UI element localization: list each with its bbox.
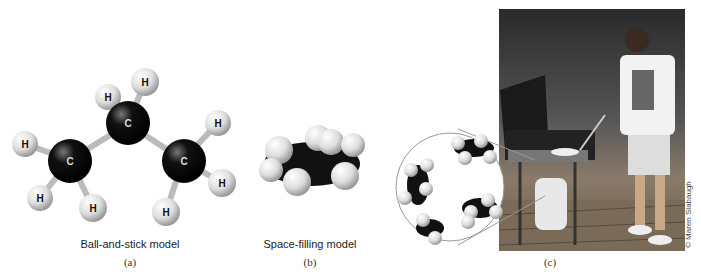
svg-text:H: H [21, 139, 28, 150]
svg-text:C: C [66, 156, 73, 167]
svg-text:H: H [89, 203, 96, 214]
svg-text:H: H [141, 77, 148, 88]
svg-text:H: H [162, 207, 169, 218]
panel-a-label: (a) [100, 256, 160, 268]
svg-text:C: C [180, 156, 187, 167]
svg-text:C: C [124, 118, 131, 129]
svg-text:H: H [36, 193, 43, 204]
figure-canvas: H H H H H H H H C C C [0, 0, 701, 278]
panel-b-label: (b) [285, 256, 335, 268]
ball-and-stick-model: H H H H H H H H C C C [12, 68, 236, 226]
svg-text:H: H [104, 92, 111, 103]
photo-credit: © Maren Slabaugh [684, 181, 693, 248]
space-filling-model [259, 125, 365, 196]
svg-text:H: H [218, 178, 225, 189]
grill-photo [499, 9, 685, 251]
panel-a-caption: Ball-and-stick model [60, 238, 200, 250]
panel-c-label: (c) [530, 256, 570, 268]
svg-text:H: H [214, 118, 221, 129]
panel-b-caption: Space-filling model [250, 238, 370, 250]
